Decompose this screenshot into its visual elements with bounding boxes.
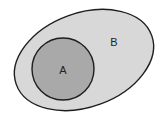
set-a-label: A bbox=[59, 64, 67, 76]
set-a: A bbox=[32, 38, 94, 100]
euler-diagram: B A bbox=[0, 0, 163, 121]
set-b-label: B bbox=[110, 36, 117, 48]
